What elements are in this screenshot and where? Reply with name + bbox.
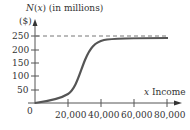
y-tick-label: 250 [12, 32, 29, 41]
y-tick-label: 100 [12, 72, 29, 81]
x-axis-arrow-icon [174, 101, 182, 106]
x-axis-title: x Income [144, 88, 186, 97]
y-axis-arrow-icon [33, 19, 38, 26]
y-tick-label: 200 [12, 46, 29, 55]
origin-label: 0 [27, 107, 33, 116]
x-tick-label: 80,000 [154, 111, 186, 120]
y-tick-label: 150 [12, 59, 29, 68]
y-axis-unit: ($) [19, 17, 32, 26]
x-tick-label: 40,000 [88, 111, 120, 120]
x-tick-label: 20,000 [55, 111, 87, 120]
y-axis-title: N(x) (in millions) [26, 4, 103, 13]
x-tick-label: 60,000 [121, 111, 153, 120]
y-tick-label: 50 [17, 86, 28, 95]
